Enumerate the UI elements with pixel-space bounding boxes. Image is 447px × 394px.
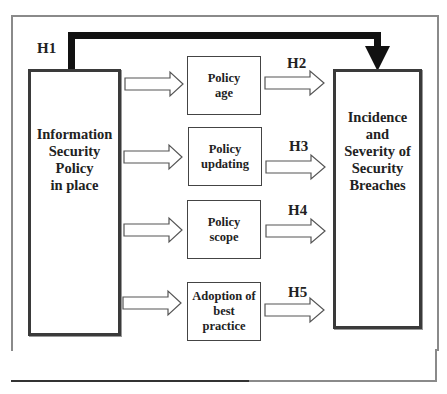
target-line: and xyxy=(344,126,410,143)
mediator-line: updating xyxy=(201,157,249,172)
arrow-right-icon xyxy=(123,291,181,315)
source-line: Information xyxy=(37,126,113,143)
mediator-line: age xyxy=(208,86,241,101)
source-box-text: Information Security Policy in place xyxy=(37,126,113,194)
mediator-box-policy-age: Policy age xyxy=(187,56,261,115)
mediator-box-policy-scope: Policy scope xyxy=(187,200,261,259)
mediator-line: scope xyxy=(208,230,241,245)
target-line: Severity of xyxy=(344,143,410,160)
source-box-information-security-policy: Information Security Policy in place xyxy=(28,69,121,336)
h5-label: H5 xyxy=(288,284,307,301)
h4-label: H4 xyxy=(288,202,307,219)
arrow-right-icon xyxy=(265,298,324,322)
target-line: Incidence xyxy=(344,109,410,126)
target-line: Breaches xyxy=(344,177,410,194)
mediator-box-policy-updating: Policy updating xyxy=(188,127,262,186)
h1-label: H1 xyxy=(37,40,56,57)
arrow-right-icon xyxy=(125,72,183,96)
h3-label: H3 xyxy=(289,138,308,155)
mediator-line: Policy xyxy=(201,142,249,157)
arrow-right-icon xyxy=(266,155,325,179)
target-box-text: Incidence and Severity of Security Breac… xyxy=(344,109,410,194)
arrow-right-icon xyxy=(266,219,325,243)
arrow-right-icon xyxy=(124,218,182,242)
source-line: Security xyxy=(37,143,113,160)
arrow-right-icon xyxy=(124,145,182,169)
arrow-right-icon xyxy=(265,71,324,95)
target-line: Security xyxy=(344,160,410,177)
mediator-line: practice xyxy=(192,319,256,334)
mediator-line: Adoption of xyxy=(192,289,256,304)
source-line: Policy xyxy=(37,160,113,177)
mediator-line: Policy xyxy=(208,215,241,230)
mediator-box-adoption-of-best-practice: Adoption of best practice xyxy=(187,282,261,341)
source-line: in place xyxy=(37,177,113,194)
mediator-line: Policy xyxy=(208,71,241,86)
h2-label: H2 xyxy=(287,55,306,72)
left-arrows xyxy=(123,72,183,315)
target-box-security-breaches: Incidence and Severity of Security Breac… xyxy=(333,69,422,329)
mediator-line: best xyxy=(192,304,256,319)
